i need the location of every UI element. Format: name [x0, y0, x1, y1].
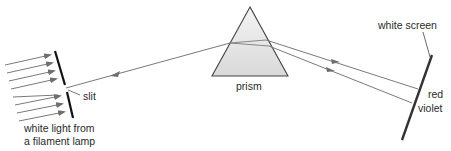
violet-beam [269, 46, 412, 103]
screen-leader-line [423, 32, 430, 57]
collimated-beam [66, 43, 230, 88]
violet-label: violet [418, 102, 443, 114]
prism-label: prism [236, 80, 262, 92]
incoming-light-rays [5, 55, 64, 121]
screen-label: white screen [378, 19, 437, 31]
dispersed-beams [266, 40, 418, 103]
source-label-line2: a filament lamp [24, 135, 95, 147]
slit-barrier [55, 51, 73, 118]
red-label: red [428, 88, 443, 100]
slit-leader-line [68, 90, 80, 95]
red-beam [266, 40, 418, 89]
slit-label: slit [83, 90, 96, 102]
beam-arrow-icon [110, 71, 120, 77]
source-label-line1: white light from [24, 122, 95, 134]
